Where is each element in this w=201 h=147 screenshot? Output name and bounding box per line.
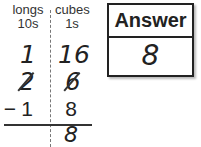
original-tens: 2 bbox=[16, 68, 38, 96]
subtrahend-ones: 8 bbox=[62, 97, 80, 121]
ones-header-label: cubes bbox=[55, 3, 89, 16]
tens-header-place: 10s bbox=[8, 17, 48, 30]
tens-header-label: longs bbox=[8, 3, 48, 16]
ones-header-place: 1s bbox=[55, 17, 89, 30]
subtrahend-tens: 1 bbox=[18, 97, 36, 121]
regrouped-tens: 1 bbox=[18, 40, 38, 69]
minus-sign: − bbox=[2, 97, 18, 121]
answer-label: Answer bbox=[109, 5, 192, 38]
answer-box: Answer 8 bbox=[107, 3, 194, 77]
original-ones: 6 bbox=[62, 68, 84, 96]
difference-ones: 8 bbox=[62, 122, 80, 147]
place-value-divider bbox=[50, 10, 51, 147]
answer-value: 8 bbox=[109, 38, 192, 74]
regrouped-ones: 16 bbox=[58, 40, 90, 69]
